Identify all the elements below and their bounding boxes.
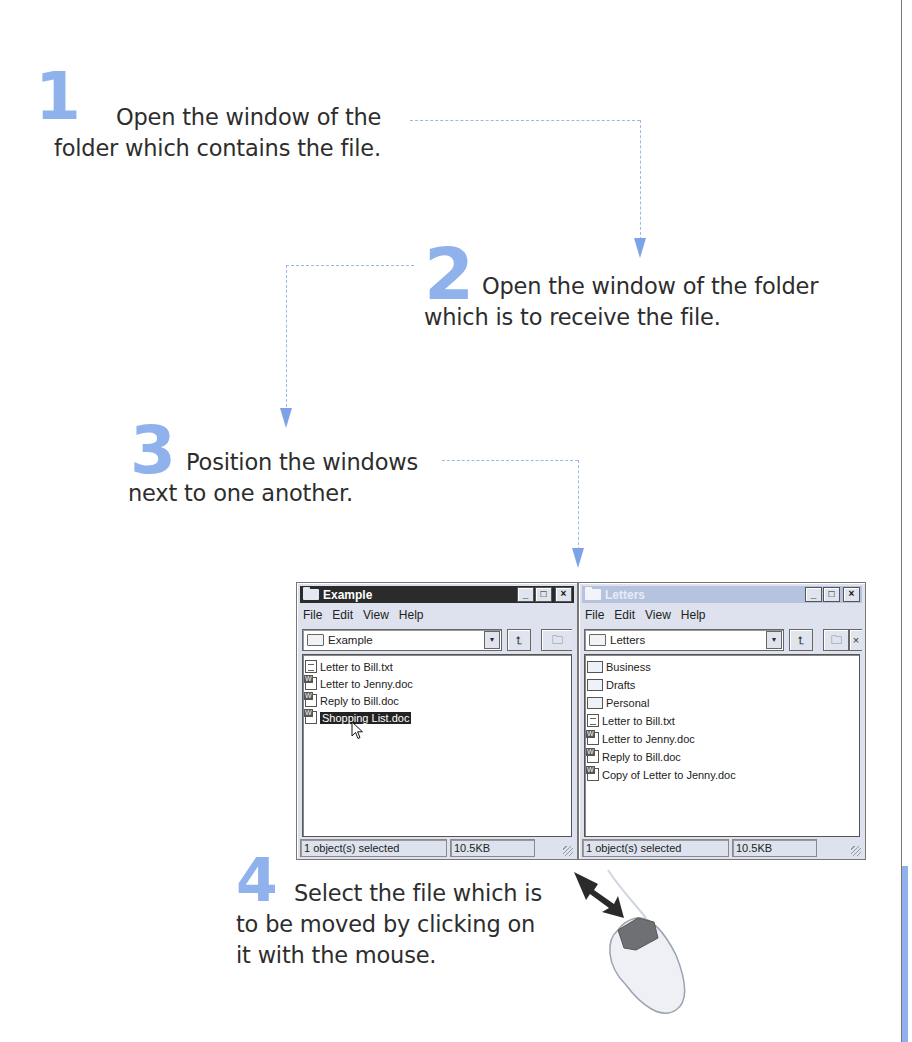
step-4-text: Select the file which is to be moved by … xyxy=(236,878,542,971)
maximize-button[interactable]: □ xyxy=(823,587,840,602)
status-bar: 1 object(s) selected 10.5KB xyxy=(300,839,574,857)
folder-icon xyxy=(307,634,324,646)
file-item[interactable]: Reply to Bill.doc xyxy=(587,748,681,765)
arrow-down-icon xyxy=(634,238,646,258)
step-3-line-1: Position the windows xyxy=(128,447,418,478)
up-one-level-button[interactable]: ⮤ xyxy=(507,629,531,651)
menu-help[interactable]: Help xyxy=(681,608,706,622)
file-name: Personal xyxy=(606,697,649,709)
file-name: Drafts xyxy=(606,679,635,691)
file-name: Business xyxy=(606,661,651,673)
step-4-line-2: to be moved by clicking on xyxy=(236,909,542,940)
step-2-line-1: Open the window of the folder xyxy=(424,271,818,302)
connector-3-horizontal xyxy=(442,460,578,461)
arrow-down-icon xyxy=(572,548,584,568)
word-document-icon xyxy=(587,732,599,745)
status-bar: 1 object(s) selected 10.5KB xyxy=(582,839,862,857)
title-bar[interactable]: Letters _ □ × xyxy=(582,586,862,603)
step-1-line-2: folder which contains the file. xyxy=(54,133,381,164)
word-document-icon xyxy=(587,750,599,763)
explorer-window-letters: Letters _ □ × File Edit View Help Letter… xyxy=(578,582,866,860)
address-dropdown[interactable]: Letters ▾ xyxy=(584,629,784,651)
folder-icon xyxy=(585,589,601,600)
resize-grip[interactable] xyxy=(538,839,574,857)
menu-view[interactable]: View xyxy=(363,608,389,622)
file-name: Reply to Bill.doc xyxy=(602,751,681,763)
disconnect-drive-button[interactable]: × xyxy=(849,629,862,651)
file-item[interactable]: Letter to Jenny.doc xyxy=(305,675,413,692)
status-size: 10.5KB xyxy=(450,839,535,857)
folder-icon xyxy=(589,634,606,646)
chapter-tab xyxy=(902,866,908,1042)
step-2-line-2: which is to receive the file. xyxy=(424,302,818,333)
file-name: Copy of Letter to Jenny.doc xyxy=(602,769,736,781)
folder-item[interactable]: Drafts xyxy=(587,676,635,693)
arrow-down-icon xyxy=(280,408,292,428)
step-4-line-3: it with the mouse. xyxy=(236,940,542,971)
file-item[interactable]: Letter to Bill.txt xyxy=(305,658,393,675)
address-value: Letters xyxy=(610,634,766,646)
window-title: Letters xyxy=(605,588,805,602)
minimize-button[interactable]: _ xyxy=(805,587,822,602)
chevron-down-icon[interactable]: ▾ xyxy=(766,631,782,649)
file-name: Letter to Bill.txt xyxy=(320,661,393,673)
step-4-line-1: Select the file which is xyxy=(236,878,542,909)
file-item[interactable]: Letter to Jenny.doc xyxy=(587,730,695,747)
step-2-text: Open the window of the folder which is t… xyxy=(424,271,818,333)
menu-file[interactable]: File xyxy=(303,608,322,622)
status-size: 10.5KB xyxy=(732,839,817,857)
up-one-level-button[interactable]: ⮤ xyxy=(789,629,813,651)
address-value: Example xyxy=(328,634,484,646)
address-dropdown[interactable]: Example ▾ xyxy=(302,629,502,651)
connector-2-horizontal xyxy=(286,265,414,266)
word-document-icon xyxy=(587,768,599,781)
menu-bar: File Edit View Help xyxy=(303,605,424,625)
connector-1-horizontal xyxy=(410,120,640,121)
connector-3-vertical xyxy=(578,460,579,550)
file-list: Business Drafts Personal Letter to Bill.… xyxy=(584,654,860,837)
file-list: Letter to Bill.txt Letter to Jenny.doc R… xyxy=(302,654,572,837)
resize-grip[interactable] xyxy=(820,839,862,857)
text-file-icon xyxy=(305,660,317,673)
text-file-icon xyxy=(587,714,599,727)
close-button[interactable]: × xyxy=(555,587,572,602)
mouse-pointer-icon xyxy=(351,721,365,741)
status-selection: 1 object(s) selected xyxy=(300,839,447,857)
folder-icon xyxy=(587,661,603,673)
menu-bar: File Edit View Help xyxy=(585,605,706,625)
step-1-text: Open the window of the folder which cont… xyxy=(54,102,381,164)
connector-2-vertical xyxy=(286,265,287,407)
minimize-button[interactable]: _ xyxy=(517,587,534,602)
word-document-icon xyxy=(305,711,317,724)
maximize-button[interactable]: □ xyxy=(535,587,552,602)
word-document-icon xyxy=(305,677,317,690)
file-name: Reply to Bill.doc xyxy=(320,695,399,707)
menu-file[interactable]: File xyxy=(585,608,604,622)
title-bar[interactable]: Example _ □ × xyxy=(300,586,574,603)
chevron-down-icon[interactable]: ▾ xyxy=(484,631,500,649)
status-selection: 1 object(s) selected xyxy=(582,839,729,857)
menu-help[interactable]: Help xyxy=(399,608,424,622)
mouse-illustration xyxy=(566,860,696,1030)
menu-edit[interactable]: Edit xyxy=(614,608,635,622)
explorer-window-example: Example _ □ × File Edit View Help Exampl… xyxy=(296,582,578,860)
menu-edit[interactable]: Edit xyxy=(332,608,353,622)
folder-icon xyxy=(587,697,603,709)
file-name: Letter to Jenny.doc xyxy=(602,733,695,745)
word-document-icon xyxy=(305,694,317,707)
file-item[interactable]: Copy of Letter to Jenny.doc xyxy=(587,766,736,783)
menu-view[interactable]: View xyxy=(645,608,671,622)
file-item[interactable]: Letter to Bill.txt xyxy=(587,712,675,729)
step-3-text: Position the windows next to one another… xyxy=(128,447,418,509)
map-network-drive-button[interactable]: 🗀 xyxy=(541,629,572,651)
folder-item[interactable]: Business xyxy=(587,658,651,675)
folder-icon xyxy=(303,589,319,600)
close-button[interactable]: × xyxy=(843,587,860,602)
folder-item[interactable]: Personal xyxy=(587,694,649,711)
window-title: Example xyxy=(323,588,517,602)
step-3-line-2: next to one another. xyxy=(128,478,418,509)
map-network-drive-button[interactable]: 🗀 xyxy=(823,629,849,651)
file-name: Letter to Bill.txt xyxy=(602,715,675,727)
file-item[interactable]: Reply to Bill.doc xyxy=(305,692,399,709)
step-1-line-1: Open the window of the xyxy=(54,102,381,133)
